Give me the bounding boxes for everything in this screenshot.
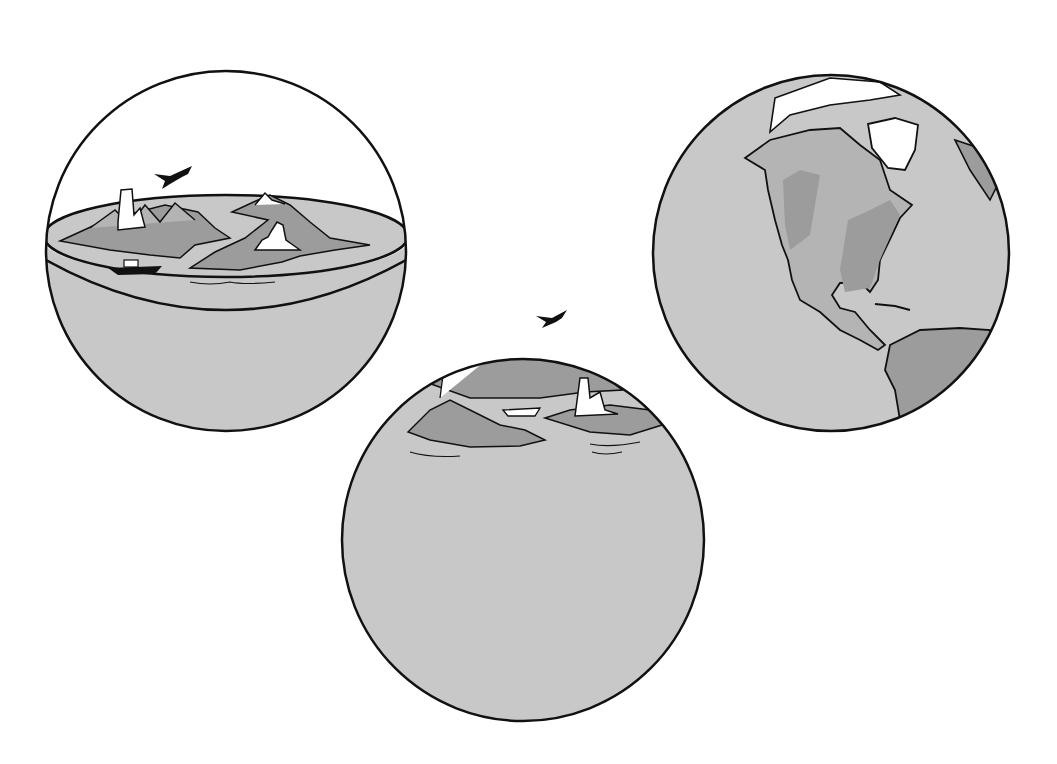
curved-earth-sphere <box>342 310 704 721</box>
airplane-icon <box>536 310 567 328</box>
figure-canvas <box>0 0 1057 764</box>
flat-disk-sphere <box>40 71 412 440</box>
earth-globe <box>653 75 1009 450</box>
